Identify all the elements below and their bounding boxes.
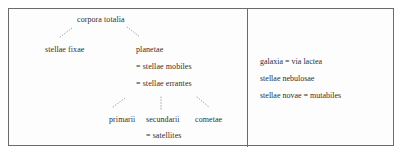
node-cometae: cometae [195, 115, 222, 125]
right-panel: galaxia = via lactea stellae nebulosae s… [248, 9, 395, 147]
connector-svg [9, 9, 247, 147]
node-satellites: = satellites [146, 131, 181, 141]
edge-corpora-to-fixae [60, 28, 72, 37]
edge-planetae-to-primarii [113, 98, 125, 107]
connector-lines [9, 9, 247, 147]
node-planetae: planetae [136, 45, 163, 55]
left-panel: corpora totalia stellae fixae planetae =… [9, 9, 247, 147]
edge-planetae-to-cometae [197, 97, 209, 107]
node-corpora-totalia: corpora totalia [77, 15, 125, 25]
edge-corpora-to-planetae [127, 27, 140, 37]
node-stellae-nebulosae: stellae nebulosae [260, 74, 314, 83]
node-galaxia-via-lactea: galaxia = via lactea [260, 57, 322, 66]
node-primarii: primarii [109, 115, 135, 125]
node-stellae-mobiles: = stellae mobiles [136, 62, 192, 72]
node-secundarii: secundarii [146, 115, 180, 125]
diagram-frame: corpora totalia stellae fixae planetae =… [8, 8, 394, 146]
node-stellae-fixae: stellae fixae [45, 45, 84, 55]
diagram-page: corpora totalia stellae fixae planetae =… [0, 0, 404, 156]
node-stellae-novae-mutabiles: stellae novae = mutabiles [260, 91, 341, 100]
node-stellae-errantes: = stellae errantes [136, 79, 192, 89]
